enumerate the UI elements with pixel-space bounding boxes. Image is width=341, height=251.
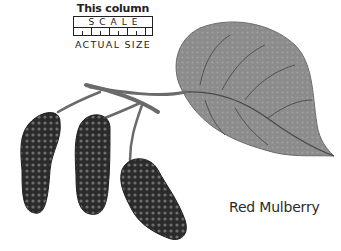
scale-caption: This column	[68, 2, 158, 15]
scale-subcaption: ACTUAL SIZE	[68, 39, 158, 51]
scale-ticks	[74, 27, 152, 35]
fruit-middle	[75, 115, 110, 215]
fruit-left	[21, 113, 60, 214]
species-label: Red Mulberry	[229, 199, 320, 215]
leaf	[176, 22, 334, 156]
scale-bar: SCALE	[73, 16, 153, 36]
fruit-right	[121, 159, 187, 240]
scale-legend: This column SCALE ACTUAL SIZE	[68, 2, 158, 51]
